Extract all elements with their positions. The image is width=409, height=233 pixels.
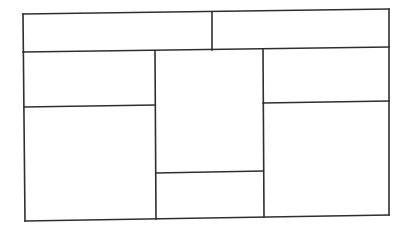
outer-top-line bbox=[23, 9, 389, 14]
left-middle-divider-line bbox=[155, 51, 156, 219]
layout-wireframe-diagram bbox=[0, 0, 409, 233]
header-bottom-line bbox=[23, 47, 389, 52]
middle-column-split-line bbox=[156, 171, 263, 173]
right-column-split-line bbox=[263, 101, 389, 103]
outer-left-line bbox=[23, 14, 25, 221]
middle-right-divider-line bbox=[263, 49, 264, 217]
outer-bottom-line bbox=[25, 215, 389, 221]
left-column-split-line bbox=[24, 105, 155, 107]
wireframe-canvas bbox=[0, 0, 409, 233]
